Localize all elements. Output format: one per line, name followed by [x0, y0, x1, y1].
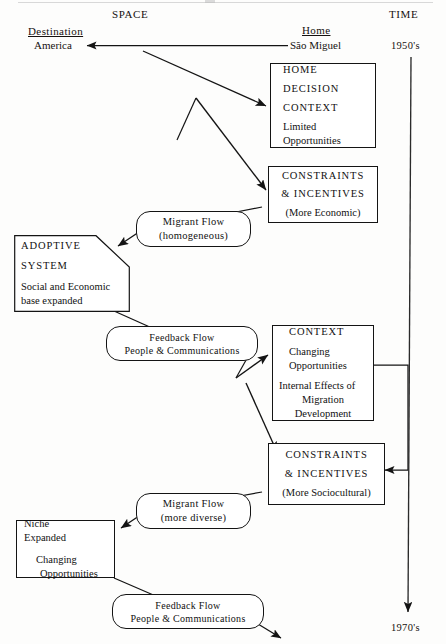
- constraints-sociocultural-line2: & INCENTIVES: [285, 467, 368, 481]
- niche-line4: Opportunities: [40, 567, 114, 581]
- feedback-upper-line1: Feedback Flow: [149, 331, 214, 344]
- home-decision-line4: Limited: [283, 120, 375, 134]
- scan-artifact-line: [18, 2, 433, 3]
- constraints-sociocultural-line1: CONSTRAINTS: [285, 448, 367, 462]
- adoptive-system-line4: base expanded: [21, 294, 130, 308]
- flow-feedback-upper: Feedback Flow People & Communications: [106, 326, 258, 361]
- context-line5: Migration: [277, 393, 369, 407]
- box-home-decision-context: HOME DECISION CONTEXT Limited Opportunit…: [270, 63, 376, 148]
- home-decision-line3: CONTEXT: [283, 101, 375, 115]
- adoptive-system-line3: Social and Economic: [21, 280, 130, 294]
- constraints-sociocultural-line3: (More Sociocultural): [282, 486, 370, 500]
- box-constraints-incentives-economic: CONSTRAINTS & INCENTIVES (More Economic): [268, 166, 378, 223]
- timeline-start-label: 1950's: [391, 40, 420, 52]
- niche-line3: Changing: [36, 553, 114, 567]
- adoptive-system-line2: SYSTEM: [21, 259, 130, 273]
- place-origin-sao-miguel: São Miguel: [290, 39, 341, 52]
- home-decision-line5: Opportunities: [283, 134, 375, 148]
- context-line1: CONTEXT: [289, 325, 369, 339]
- feedback-lower-line1: Feedback Flow: [155, 599, 220, 612]
- header-space: SPACE: [112, 8, 148, 21]
- arrow-to-home-decision-context: [143, 51, 266, 106]
- timeline-end-label: 1970's: [391, 622, 420, 634]
- migrant-homogeneous-line2: (homogeneous): [159, 229, 228, 243]
- box-context-changing-opportunities: CONTEXT Changing Opportunities Internal …: [272, 325, 374, 421]
- box-adoptive-system: ADOPTIVE SYSTEM Social and Economic base…: [14, 235, 130, 312]
- time-axis-arrow: [408, 57, 411, 612]
- flow-migrant-diverse: Migrant Flow (more diverse): [136, 493, 251, 529]
- header-time: TIME: [389, 8, 418, 21]
- scan-artifact-mark: [205, 0, 215, 3]
- flow-migrant-homogeneous: Migrant Flow (homogeneous): [136, 211, 251, 247]
- home-decision-line2: DECISION: [283, 82, 375, 96]
- place-destination-america: America: [34, 39, 72, 52]
- feedback-upper-line2: People & Communications: [124, 344, 239, 357]
- adoptive-system-line1: ADOPTIVE: [21, 239, 130, 253]
- migrant-diverse-line2: (more diverse): [161, 511, 227, 525]
- migrant-diverse-line1: Migrant Flow: [163, 497, 225, 511]
- feedback-lower-line2: People & Communications: [130, 612, 245, 625]
- niche-line2: Expanded: [24, 531, 114, 545]
- migrant-homogeneous-line1: Migrant Flow: [163, 215, 225, 229]
- header-destination: Destination: [28, 25, 83, 38]
- context-line4: Internal Effects of: [279, 379, 369, 393]
- context-line2: Changing: [289, 345, 369, 359]
- migration-systems-diagram: SPACE TIME Destination Home America São …: [0, 0, 446, 644]
- arrow-to-constraints-economic: [177, 98, 266, 190]
- header-home: Home: [302, 24, 330, 37]
- niche-line1: Niche: [24, 517, 114, 531]
- arrow-feedback-lower-continues: [258, 624, 281, 638]
- context-line6: Development: [277, 407, 369, 421]
- context-line3: Opportunities: [289, 359, 369, 373]
- box-niche-expanded: Niche Expanded Changing Opportunities: [16, 520, 115, 578]
- box-constraints-incentives-sociocultural: CONSTRAINTS & INCENTIVES (More Sociocult…: [268, 443, 385, 505]
- constraints-economic-line2: & INCENTIVES: [281, 187, 364, 201]
- flow-feedback-lower: Feedback Flow People & Communications: [112, 594, 264, 629]
- home-decision-line1: HOME: [283, 63, 375, 77]
- constraints-economic-line1: CONSTRAINTS: [282, 169, 364, 183]
- constraints-economic-line3: (More Economic): [286, 206, 361, 220]
